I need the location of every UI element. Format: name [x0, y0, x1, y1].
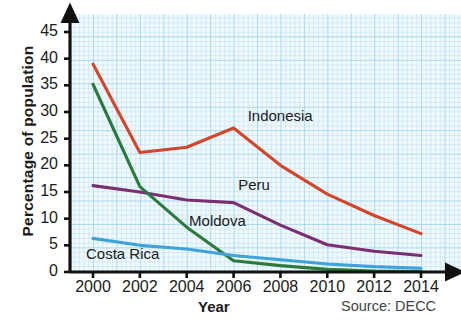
series-label-indonesia: Indonesia: [248, 107, 313, 124]
x-tick-label: 2014: [394, 278, 448, 296]
series-label-peru: Peru: [238, 176, 270, 193]
series-label-costa-rica: Costa Rica: [86, 245, 159, 262]
line-chart-figure: 051015202530354045 200020022004200620082…: [0, 0, 461, 322]
axes-layer: [0, 0, 461, 322]
x-axis-title: Year: [198, 298, 230, 315]
series-label-moldova: Moldova: [189, 212, 246, 229]
y-axis-title: Percentage of population: [19, 6, 37, 276]
source-note: Source: DECC: [341, 298, 436, 314]
